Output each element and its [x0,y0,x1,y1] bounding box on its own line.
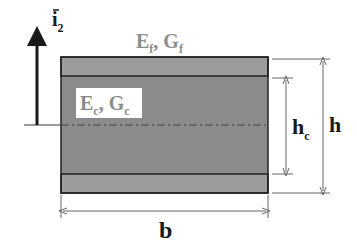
axis-label: i2 [52,8,64,35]
face-label: Ef, Gf [136,30,184,56]
top-face-sheet [61,57,268,76]
total-height-label: h [329,112,341,137]
bottom-face-sheet [61,174,268,193]
core-height-label: hc [292,114,310,143]
sandwich-section-diagram: i2 Ef, Gf Ec, Gc hc h b [0,0,357,251]
width-label: b [159,217,172,243]
axis-arrow-head-icon [27,26,47,46]
